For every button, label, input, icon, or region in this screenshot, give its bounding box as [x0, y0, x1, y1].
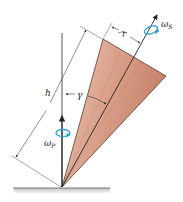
- r-extension-left: [103, 23, 112, 39]
- cone-body: [62, 39, 166, 187]
- r-label: r: [122, 29, 127, 39]
- cone: [62, 39, 166, 187]
- omega-s-label: ωS: [161, 19, 172, 30]
- h-extension-top: [80, 26, 102, 39]
- precession-rotation-icon: [56, 130, 70, 138]
- ground: [13, 188, 110, 194]
- omega-p-label: ωP: [44, 138, 56, 149]
- h-extension-bottom: [12, 156, 61, 187]
- h-label: h: [45, 88, 51, 98]
- r-dim-line-left: [112, 27, 119, 30]
- precession-axis: ωP: [44, 33, 70, 187]
- dimension-r: r: [103, 23, 140, 43]
- ground-shadow: [14, 188, 110, 194]
- cone-precession-diagram: ωS ωP h r γ: [0, 0, 183, 202]
- r-dim-line-right: [130, 37, 140, 43]
- h-dim-line-lower: [16, 111, 46, 157]
- spin-rotation-icon: [143, 24, 159, 35]
- gamma-label: γ: [77, 90, 83, 100]
